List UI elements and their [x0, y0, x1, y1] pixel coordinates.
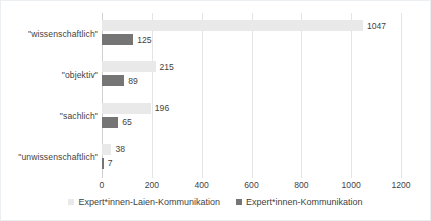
x-tick-label: 0: [100, 180, 105, 190]
bar-value-label: 38: [115, 144, 125, 154]
x-tick-label: 600: [244, 180, 258, 190]
bar-chart: "wissenschaftlich"1047125"objektiv"21589…: [0, 0, 431, 221]
bar[interactable]: [102, 61, 156, 72]
category-label: "unwissenschaftlich": [18, 152, 98, 162]
bar[interactable]: [102, 158, 104, 169]
category-group: "sachlich"19665: [102, 96, 401, 137]
bar-value-label: 215: [160, 62, 174, 72]
chart-legend: Expert*innen-Laien-KommunikationExpert*i…: [1, 197, 430, 207]
x-tick-label: 400: [194, 180, 208, 190]
category-group: "objektiv"21589: [102, 54, 401, 95]
bar-value-label: 196: [155, 103, 169, 113]
legend-item[interactable]: Expert*innen-Laien-Kommunikation: [68, 197, 220, 207]
category-label: "objektiv": [62, 70, 98, 80]
gridline: [401, 13, 402, 178]
bar[interactable]: [102, 117, 118, 128]
bar-value-label: 65: [122, 117, 132, 127]
legend-item[interactable]: Expert*innen-Kommunikation: [236, 197, 363, 207]
bar[interactable]: [102, 144, 111, 155]
category-group: "unwissenschaftlich"387: [102, 137, 401, 178]
category-label: "sachlich": [60, 111, 98, 121]
bar-value-label: 89: [128, 76, 138, 86]
x-tick-label: 200: [145, 180, 159, 190]
bar[interactable]: [102, 75, 124, 86]
category-group: "wissenschaftlich"1047125: [102, 13, 401, 54]
bar-value-label: 1047: [367, 21, 386, 31]
legend-swatch-icon: [236, 199, 242, 205]
bar[interactable]: [102, 34, 133, 45]
x-axis: 020040060080010001200: [102, 178, 401, 194]
legend-label: Expert*innen-Laien-Kommunikation: [78, 197, 220, 207]
plot-area: "wissenschaftlich"1047125"objektiv"21589…: [102, 13, 401, 178]
bar-value-label: 7: [108, 158, 113, 168]
bar[interactable]: [102, 103, 151, 114]
bar[interactable]: [102, 20, 363, 31]
x-tick-label: 800: [294, 180, 308, 190]
legend-swatch-icon: [68, 199, 74, 205]
bar-value-label: 125: [137, 35, 151, 45]
x-tick-label: 1200: [391, 180, 410, 190]
x-tick-label: 1000: [342, 180, 361, 190]
legend-label: Expert*innen-Kommunikation: [246, 197, 363, 207]
category-label: "wissenschaftlich": [28, 29, 98, 39]
